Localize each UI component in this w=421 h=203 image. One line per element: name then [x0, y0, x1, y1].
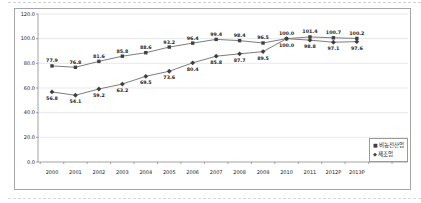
- svg-text:2012P: 2012P: [326, 169, 342, 175]
- svg-text:100.0: 100.0: [279, 43, 295, 48]
- svg-text:2005: 2005: [163, 169, 176, 175]
- svg-text:2001: 2001: [69, 169, 82, 175]
- svg-text:120.0: 120.0: [21, 11, 35, 17]
- svg-text:100.0: 100.0: [21, 35, 35, 41]
- svg-text:96.5: 96.5: [257, 35, 269, 40]
- series-2-value-labels: 56.854.159.263.269.573.680.485.887.789.5…: [46, 43, 363, 105]
- svg-text:2003: 2003: [116, 169, 129, 175]
- svg-text:2007: 2007: [210, 169, 223, 175]
- svg-text:99.4: 99.4: [210, 32, 222, 37]
- svg-text:97.1: 97.1: [327, 46, 339, 51]
- svg-text:63.2: 63.2: [116, 88, 128, 93]
- x-category-labels: 2000200120022003200420052006200720082009…: [46, 169, 365, 175]
- svg-text:100.0: 100.0: [279, 31, 295, 36]
- diamond-marker-icon: ◆: [373, 150, 377, 159]
- svg-text:98.4: 98.4: [234, 33, 246, 38]
- svg-text:2010: 2010: [280, 169, 293, 175]
- svg-text:81.6: 81.6: [93, 54, 105, 59]
- x-axis: [38, 162, 408, 164]
- svg-text:60.0: 60.0: [24, 85, 35, 91]
- svg-text:54.1: 54.1: [70, 99, 82, 104]
- svg-text:89.5: 89.5: [257, 56, 269, 61]
- legend-label-series2: 제조업: [378, 150, 393, 159]
- svg-text:87.7: 87.7: [234, 58, 246, 63]
- svg-text:2004: 2004: [139, 169, 152, 175]
- square-marker-icon: ■: [373, 141, 378, 150]
- svg-text:56.8: 56.8: [46, 96, 58, 101]
- svg-text:2006: 2006: [186, 169, 199, 175]
- svg-text:59.2: 59.2: [93, 93, 105, 98]
- svg-text:80.4: 80.4: [187, 67, 199, 72]
- svg-text:85.8: 85.8: [210, 60, 222, 65]
- svg-text:80.0: 80.0: [24, 60, 35, 66]
- svg-text:40.0: 40.0: [24, 109, 35, 115]
- line-chart: 0.020.040.060.080.0100.0120.020002001200…: [0, 0, 421, 203]
- svg-text:97.6: 97.6: [351, 46, 363, 51]
- svg-text:2002: 2002: [93, 169, 106, 175]
- svg-text:100.7: 100.7: [326, 30, 341, 35]
- legend-label-series1: 비농전산업: [379, 141, 404, 150]
- svg-text:88.6: 88.6: [140, 45, 152, 50]
- svg-text:20.0: 20.0: [24, 134, 35, 140]
- svg-text:101.4: 101.4: [302, 29, 318, 34]
- svg-text:100.2: 100.2: [349, 31, 364, 36]
- svg-text:2009: 2009: [257, 169, 270, 175]
- svg-text:69.5: 69.5: [140, 80, 152, 85]
- svg-text:0.0: 0.0: [27, 159, 35, 165]
- svg-text:98.8: 98.8: [304, 44, 316, 49]
- y-axis: 0.020.040.060.080.0100.0120.0: [21, 11, 38, 165]
- svg-text:96.4: 96.4: [187, 36, 199, 41]
- svg-text:76.8: 76.8: [70, 60, 82, 65]
- legend-item-series2: ◆ 제조업: [373, 150, 404, 159]
- svg-text:2013P: 2013P: [349, 169, 365, 175]
- svg-text:77.9: 77.9: [46, 58, 58, 63]
- legend: ■ 비농전산업 ◆ 제조업: [369, 138, 408, 162]
- svg-text:2011: 2011: [304, 169, 317, 175]
- svg-text:2000: 2000: [46, 169, 59, 175]
- svg-text:85.8: 85.8: [116, 49, 128, 54]
- legend-item-series1: ■ 비농전산업: [373, 141, 404, 150]
- svg-text:93.2: 93.2: [163, 40, 175, 45]
- svg-text:2008: 2008: [233, 169, 246, 175]
- svg-text:73.6: 73.6: [163, 75, 175, 80]
